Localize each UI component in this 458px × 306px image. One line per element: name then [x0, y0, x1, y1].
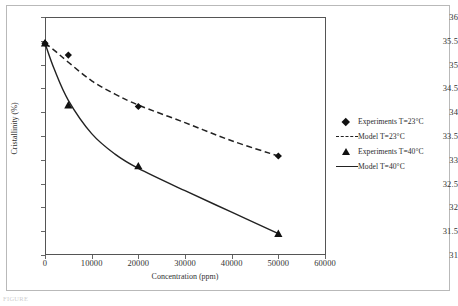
- ytick-mark: [41, 65, 45, 66]
- dashed-line-icon: [336, 130, 358, 144]
- ytick-mark: [41, 112, 45, 113]
- legend-item-experiments-23[interactable]: Experiments T=23°C: [336, 114, 456, 129]
- y-axis-label: Cristallinity (%): [10, 69, 19, 189]
- ytick-label: 34.5: [420, 84, 458, 93]
- diamond-marker-icon: [336, 115, 358, 129]
- x-axis-label: Concentration (ppm): [45, 272, 325, 281]
- ytick-mark: [41, 160, 45, 161]
- ytick-label: 32.5: [420, 180, 458, 189]
- legend-label: Experiments T=23°C: [358, 117, 424, 126]
- figure-caption: FIGURE: [3, 295, 28, 303]
- legend-item-model-23[interactable]: Model T=23°C: [336, 129, 456, 144]
- legend-item-model-40[interactable]: Model T=40°C: [336, 159, 456, 174]
- plot-frame-top: [45, 17, 325, 18]
- plot-area: [45, 17, 325, 255]
- ytick-label: 35.5: [420, 37, 458, 46]
- ytick-label: 36: [420, 13, 458, 22]
- ytick-mark: [41, 136, 45, 137]
- legend-item-experiments-40[interactable]: Experiments T=40°C: [336, 144, 456, 159]
- ytick-mark: [41, 17, 45, 18]
- ytick-mark: [41, 231, 45, 232]
- xtick-label: 60000: [295, 259, 355, 268]
- ytick-mark: [41, 88, 45, 89]
- triangle-marker-icon: [336, 145, 358, 159]
- ytick-mark: [41, 184, 45, 185]
- ytick-mark: [41, 41, 45, 42]
- ytick-label: 32: [420, 203, 458, 212]
- solid-line-icon: [336, 160, 358, 174]
- ytick-label: 31.5: [420, 227, 458, 236]
- figure-container: 36 35.5 35 34.5 34 33.5 33 32.5 32 31.5 …: [0, 0, 458, 306]
- legend-label: Model T=40°C: [358, 162, 405, 171]
- ytick-label: 31: [420, 251, 458, 260]
- legend-label: Experiments T=40°C: [358, 147, 424, 156]
- legend-label: Model T=23°C: [358, 132, 405, 141]
- ytick-label: 35: [420, 61, 458, 70]
- legend: Experiments T=23°C Model T=23°C Experime…: [336, 114, 456, 174]
- plot-frame-right: [325, 17, 326, 255]
- ytick-mark: [41, 207, 45, 208]
